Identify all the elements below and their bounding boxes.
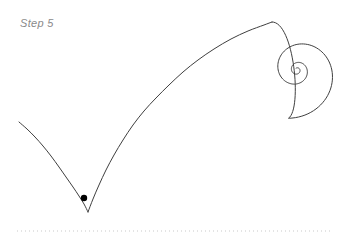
tracing-point-marker — [81, 195, 87, 201]
step-label: Step 5 — [20, 17, 54, 29]
cycloid-spiral-figure — [0, 0, 345, 246]
figure-background — [0, 0, 345, 246]
figure-container: Step 5 — [0, 0, 345, 246]
